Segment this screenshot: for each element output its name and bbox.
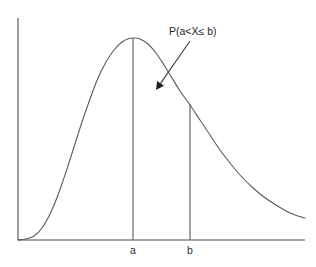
probability-annotation-label: P(a<X≤ b) — [169, 25, 217, 37]
probability-density-figure: P(a<X≤ b) a b — [0, 0, 316, 267]
x-tick-label-b: b — [187, 244, 193, 256]
x-tick-label-a: a — [130, 244, 136, 256]
figure-background — [0, 0, 316, 267]
